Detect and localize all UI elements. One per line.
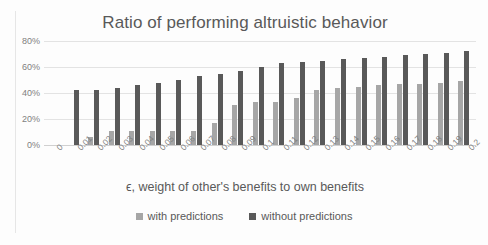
bar-group (373, 41, 394, 145)
bar-group (414, 41, 435, 145)
bar-group (455, 41, 476, 145)
chart-container: Ratio of performing altruistic behavior … (0, 0, 488, 245)
bar-group (291, 41, 312, 145)
legend-swatch-icon (136, 213, 143, 220)
bar (300, 62, 305, 145)
bar-group (394, 41, 415, 145)
bar (423, 54, 428, 145)
plot-area (44, 41, 476, 145)
legend-label: without predictions (261, 210, 352, 222)
bar (464, 51, 469, 145)
x-axis-tick-labels: 00.010.020.030.040.050.060.070.080.090.1… (44, 146, 476, 178)
bar (403, 55, 408, 145)
legend-label: with predictions (148, 210, 224, 222)
bar (94, 90, 99, 145)
bar-group (209, 41, 230, 145)
bar-group (188, 41, 209, 145)
y-axis-tick-label: 0% (6, 141, 40, 150)
y-axis-tick-label: 40% (6, 89, 40, 98)
bar-group (270, 41, 291, 145)
y-axis-tick-label: 80% (6, 37, 40, 46)
bar-group (65, 41, 86, 145)
legend-swatch-icon (249, 213, 256, 220)
y-axis-tick-labels: 80%60%40%20%0% (4, 41, 40, 151)
bar (74, 90, 79, 145)
bar (273, 102, 278, 145)
y-axis-tick-label: 60% (6, 63, 40, 72)
bar (259, 67, 264, 145)
y-axis-tick-label: 20% (6, 115, 40, 124)
bar (279, 63, 284, 145)
legend-item: without predictions (249, 210, 352, 222)
bar-group (250, 41, 271, 145)
bar (362, 58, 367, 145)
bar-group (311, 41, 332, 145)
bar (197, 76, 202, 145)
bar-group (44, 41, 65, 145)
bar-group (332, 41, 353, 145)
bar (156, 83, 161, 145)
bar-group (167, 41, 188, 145)
chart-legend: with predictionswithout predictions (0, 210, 488, 222)
bar (382, 57, 387, 145)
bar (176, 80, 181, 145)
bar (135, 85, 140, 145)
bar-group (435, 41, 456, 145)
bar (115, 88, 120, 145)
bar-group (147, 41, 168, 145)
bar (218, 74, 223, 146)
bar (444, 53, 449, 145)
bar (320, 61, 325, 146)
bar (341, 59, 346, 145)
legend-item: with predictions (136, 210, 224, 222)
bar-group (229, 41, 250, 145)
bar-group (353, 41, 374, 145)
x-axis-title: ϵ, weight of other's benefits to own ben… (40, 180, 450, 194)
bar-group (106, 41, 127, 145)
bar-group (85, 41, 106, 145)
chart-title: Ratio of performing altruistic behavior (60, 13, 430, 35)
bar-group (126, 41, 147, 145)
bar (238, 71, 243, 145)
